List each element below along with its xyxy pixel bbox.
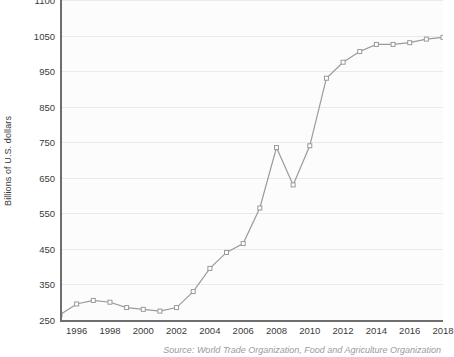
y-axis-title: Billions of U.S. dollars: [0, 0, 16, 322]
y-axis-tick-label: 550: [39, 208, 55, 219]
x-axis-tick-label: 2018: [432, 325, 453, 336]
source-attribution: Source: World Trade Organization, Food a…: [163, 345, 441, 355]
y-axis-title-label: Billions of U.S. dollars: [3, 116, 13, 206]
data-point-marker: [175, 306, 179, 310]
data-point-marker: [391, 42, 395, 46]
data-point-marker: [208, 266, 212, 270]
x-axis-tick-label: 1998: [99, 325, 120, 336]
x-axis-tick-label: 2012: [333, 325, 354, 336]
data-point-marker: [91, 298, 95, 302]
data-point-marker: [75, 302, 79, 306]
x-axis-tick-label: 2002: [166, 325, 187, 336]
y-axis-tick-label: 350: [39, 279, 55, 290]
data-point-marker: [141, 307, 145, 311]
data-point-marker: [441, 35, 443, 39]
x-axis-tick-label: 2004: [199, 325, 220, 336]
data-point-marker: [341, 60, 345, 64]
y-axis-line: [60, 0, 62, 321]
y-axis-tick-label: 1050: [34, 30, 55, 41]
data-point-marker: [241, 242, 245, 246]
x-axis-line: [60, 320, 443, 322]
x-axis-tick-label: 2016: [399, 325, 420, 336]
y-axis-tick-label: 250: [39, 315, 55, 326]
data-point-marker: [191, 290, 195, 294]
y-axis-tick-label: 850: [39, 101, 55, 112]
y-axis-tick-label: 750: [39, 137, 55, 148]
y-axis-tick-labels: 25035045055065075085095010501100: [16, 0, 60, 322]
data-point-marker: [125, 306, 129, 310]
x-axis-tick-label: 2014: [366, 325, 387, 336]
data-point-marker: [308, 144, 312, 148]
data-point-marker: [225, 250, 229, 254]
y-axis-tick-label: 1100: [35, 0, 55, 6]
data-point-marker: [358, 50, 362, 54]
data-series-line: [60, 0, 443, 320]
data-point-marker: [374, 42, 378, 46]
x-axis-tick-label: 1996: [66, 325, 87, 336]
data-point-marker: [108, 300, 112, 304]
y-axis-tick-label: 450: [39, 243, 55, 254]
x-axis-tick-label: 2006: [233, 325, 254, 336]
x-axis-tick-labels: 1996199820002002200420062008201020122014…: [60, 325, 443, 339]
data-point-marker: [158, 309, 162, 313]
x-axis-tick-label: 2000: [133, 325, 154, 336]
x-axis-tick-label: 2008: [266, 325, 287, 336]
plot-area: [60, 0, 443, 320]
y-axis-tick-label: 950: [39, 66, 55, 77]
series-polyline: [60, 37, 443, 314]
data-point-marker: [408, 41, 412, 45]
data-point-marker: [258, 206, 262, 210]
data-point-marker: [324, 76, 328, 80]
data-point-marker: [274, 146, 278, 150]
x-axis-tick-label: 2010: [299, 325, 320, 336]
data-point-marker: [424, 37, 428, 41]
data-point-marker: [291, 183, 295, 187]
y-axis-tick-label: 650: [39, 172, 55, 183]
